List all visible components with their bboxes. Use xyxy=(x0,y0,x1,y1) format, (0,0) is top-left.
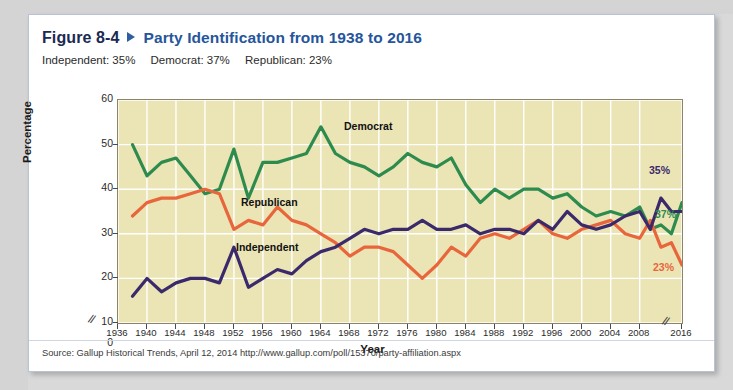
end-label-republican: 23% xyxy=(653,261,674,273)
x-tick-mark xyxy=(204,324,205,329)
series-label-republican: Republican xyxy=(241,196,298,208)
page-top-margin xyxy=(0,0,733,14)
x-tick-mark xyxy=(291,324,292,329)
x-tick-mark xyxy=(320,324,321,329)
subtitle-democrat: Democrat: 37% xyxy=(151,54,230,66)
source-caption: Source: Gallup Historical Trends, April … xyxy=(42,348,461,358)
x-tick-mark xyxy=(494,324,495,329)
x-tick-mark xyxy=(552,324,553,329)
x-tick-mark xyxy=(436,324,437,329)
x-tick-mark xyxy=(378,324,379,329)
x-tick-mark xyxy=(349,324,350,329)
end-label-independent: 35% xyxy=(649,164,670,176)
x-tick-mark xyxy=(523,324,524,329)
series-label-independent: Independent xyxy=(236,241,298,253)
source-divider xyxy=(29,340,714,341)
x-tick-mark xyxy=(407,324,408,329)
y-tick-mark xyxy=(113,144,118,145)
x-tick-mark xyxy=(581,324,582,329)
y-tick-mark xyxy=(113,322,118,323)
x-tick-mark xyxy=(233,324,234,329)
x-tick-mark xyxy=(465,324,466,329)
figure-header: Figure 8-4 Party Identification from 193… xyxy=(42,29,422,47)
x-tick-mark xyxy=(146,324,147,329)
x-tick-mark xyxy=(610,324,611,329)
y-tick-mark xyxy=(113,277,118,278)
figure-number: Figure 8-4 xyxy=(42,29,119,47)
x-tick-mark xyxy=(262,324,263,329)
y-tick-mark xyxy=(113,188,118,189)
figure-title: Party Identification from 1938 to 2016 xyxy=(143,29,422,47)
triangle-marker-icon xyxy=(127,32,135,42)
chart-area: Percentage 0102030405060 193619401944194… xyxy=(29,71,716,339)
x-tick-mark xyxy=(117,324,118,329)
y-tick-mark xyxy=(113,233,118,234)
series-label-democrat: Democrat xyxy=(344,120,392,132)
figure-card: Figure 8-4 Party Identification from 193… xyxy=(28,14,715,372)
end-label-democrat: 37% xyxy=(655,208,676,220)
x-tick-mark xyxy=(175,324,176,329)
figure-subtitle: Independent: 35% Democrat: 37% Republica… xyxy=(42,54,344,66)
series-lines xyxy=(118,100,682,323)
plot-region xyxy=(117,99,683,324)
subtitle-republican: Republican: 23% xyxy=(245,54,332,66)
x-tick-mark xyxy=(681,324,682,329)
subtitle-independent: Independent: 35% xyxy=(42,54,135,66)
x-tick-mark xyxy=(639,324,640,329)
page-left-margin xyxy=(0,0,28,390)
